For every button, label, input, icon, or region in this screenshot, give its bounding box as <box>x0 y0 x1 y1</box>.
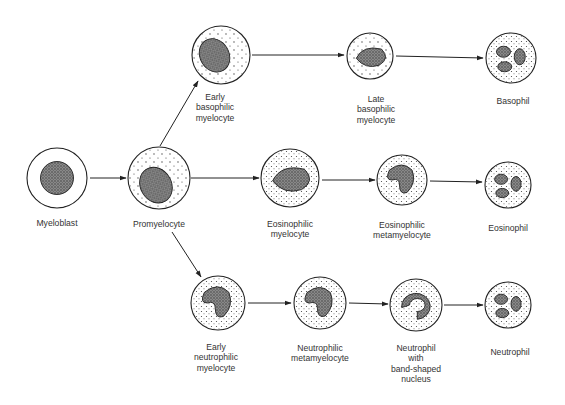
nucleus-icon <box>511 296 521 311</box>
arrow-neutrophilic-metamyelocyte-to-neutrophil-band <box>349 303 388 304</box>
cell-eosinophil <box>485 162 531 208</box>
diagram-canvas <box>0 0 565 405</box>
label-neutrophil: Neutrophil <box>490 347 529 357</box>
label-myeloblast: Myeloblast <box>36 218 77 228</box>
label-neutrophil-band: Neutrophil with band-shaped nucleus <box>391 343 441 385</box>
label-neutrophilic-metamyelocyte: Neutrophilic metamyelocyte <box>291 343 349 364</box>
granulocyte-maturation-diagram: MyeloblastPromyelocyteEarly basophilic m… <box>0 0 565 405</box>
label-eosinophilic-metamyelocyte: Eosinophilic metamyelocyte <box>373 220 431 241</box>
nucleus-icon <box>41 162 74 195</box>
cell-late-basophilic-myelocyte <box>347 33 393 79</box>
nucleus-icon <box>498 62 512 72</box>
label-basophil: Basophil <box>497 96 530 106</box>
nucleus-icon <box>495 294 508 304</box>
cell-basophil <box>486 33 536 83</box>
label-early-neutrophilic-myelocyte: Early neutrophilic myelocyte <box>194 342 238 373</box>
cell-eosinophilic-myelocyte <box>261 149 319 207</box>
cell-neutrophil <box>485 282 531 328</box>
label-eosinophilic-myelocyte: Eosinophilic myelocyte <box>267 219 313 240</box>
nucleus-icon <box>514 49 525 65</box>
nucleus-icon <box>496 308 509 317</box>
arrow-promyelocyte-to-early-basophilic-myelocyte <box>160 81 198 146</box>
arrow-eosinophilic-metamyelocyte-to-eosinophil <box>430 181 482 182</box>
cell-myeloblast <box>27 148 87 208</box>
nucleus-icon <box>511 176 521 191</box>
label-late-basophilic-myelocyte: Late basophilic myelocyte <box>357 94 396 125</box>
arrow-promyelocyte-to-early-neutrophilic-myelocyte <box>172 232 201 277</box>
label-early-basophilic-myelocyte: Early basophilic myelocyte <box>196 92 235 123</box>
cell-neutrophilic-metamyelocyte <box>294 277 346 329</box>
label-eosinophil: Eosinophil <box>488 223 528 233</box>
label-promyelocyte: Promyelocyte <box>133 219 185 229</box>
arrow-late-basophilic-myelocyte-to-basophil <box>396 56 483 58</box>
nucleus-icon <box>497 46 511 57</box>
nucleus-icon <box>496 188 509 197</box>
nucleus-icon <box>495 174 508 184</box>
cell-early-basophilic-myelocyte <box>192 26 250 84</box>
cell-promyelocyte <box>128 147 190 209</box>
cell-early-neutrophilic-myelocyte <box>191 276 245 330</box>
cell-neutrophil-band <box>390 279 442 331</box>
cell-eosinophilic-metamyelocyte <box>377 155 427 205</box>
